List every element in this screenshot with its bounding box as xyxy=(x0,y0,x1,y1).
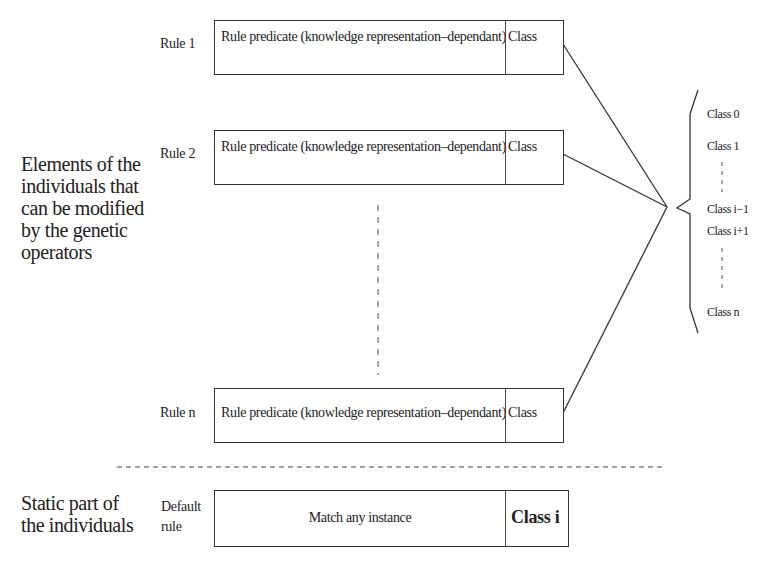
modifiable-label-line: operators xyxy=(21,241,144,263)
class-set-brace xyxy=(677,90,698,333)
rule-2-predicate: Rule predicate (knowledge representation… xyxy=(221,139,506,155)
rule-n-box: Rule predicate (knowledge representation… xyxy=(214,388,564,443)
static-label-line: the individuals xyxy=(21,514,133,536)
rule-2-box: Rule predicate (knowledge representation… xyxy=(214,130,564,185)
static-part-label: Static part of the individuals xyxy=(21,492,133,536)
rule-1-divider xyxy=(505,21,506,74)
rule-1-class: Class xyxy=(508,29,537,45)
connector-rule-1 xyxy=(563,44,667,207)
rule-2-divider xyxy=(505,131,506,184)
modifiable-label-line: can be modified xyxy=(21,197,144,219)
default-rule-divider xyxy=(505,491,506,546)
rule-1-label: Rule 1 xyxy=(160,36,195,52)
static-label-line: Static part of xyxy=(21,492,133,514)
class-item-i-minus-1: Class i−1 xyxy=(707,202,749,217)
rule-n-class: Class xyxy=(508,405,537,421)
modifiable-label-line: Elements of the xyxy=(21,153,144,175)
connector-rule-2 xyxy=(563,154,667,207)
modifiable-label-line: by the genetic xyxy=(21,219,144,241)
default-rule-class: Class i xyxy=(511,507,559,528)
default-rule-label: Default rule xyxy=(161,497,201,537)
default-rule-predicate: Match any instance xyxy=(215,510,505,526)
default-rule-label-line: Default xyxy=(161,497,201,517)
class-item-1: Class 1 xyxy=(707,139,739,154)
rule-n-divider xyxy=(505,389,506,442)
class-item-0: Class 0 xyxy=(707,107,739,122)
default-rule-box: Match any instance Class i xyxy=(214,490,569,547)
connector-rule-n xyxy=(563,207,667,413)
class-item-n: Class n xyxy=(707,305,739,320)
rule-1-box: Rule predicate (knowledge representation… xyxy=(214,20,564,75)
rule-n-label: Rule n xyxy=(160,405,195,421)
rule-1-predicate: Rule predicate (knowledge representation… xyxy=(221,29,506,45)
default-rule-label-line: rule xyxy=(161,517,201,537)
rule-n-predicate: Rule predicate (knowledge representation… xyxy=(221,405,506,421)
rule-2-label: Rule 2 xyxy=(160,146,195,162)
class-item-i-plus-1: Class i+1 xyxy=(707,224,749,239)
modifiable-elements-label: Elements of the individuals that can be … xyxy=(21,153,144,263)
rule-2-class: Class xyxy=(508,139,537,155)
modifiable-label-line: individuals that xyxy=(21,175,144,197)
